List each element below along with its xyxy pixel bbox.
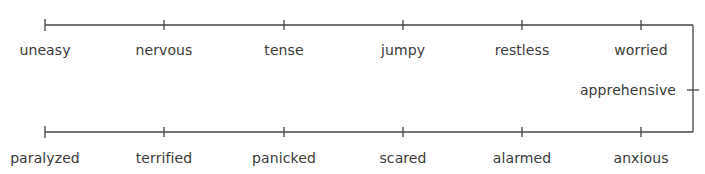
label-restless: restless (495, 42, 550, 58)
label-apprehensive: apprehensive (580, 82, 676, 98)
label-scared: scared (379, 150, 426, 166)
label-worried: worried (614, 42, 667, 58)
label-paralyzed: paralyzed (10, 150, 80, 166)
label-panicked: panicked (252, 150, 316, 166)
label-terrified: terrified (136, 150, 192, 166)
label-jumpy: jumpy (381, 42, 425, 58)
label-alarmed: alarmed (493, 150, 551, 166)
label-uneasy: uneasy (19, 42, 70, 58)
label-nervous: nervous (136, 42, 193, 58)
label-anxious: anxious (613, 150, 668, 166)
anxiety-word-continuum: uneasy nervous tense jumpy restless worr… (0, 0, 705, 174)
label-tense: tense (264, 42, 303, 58)
